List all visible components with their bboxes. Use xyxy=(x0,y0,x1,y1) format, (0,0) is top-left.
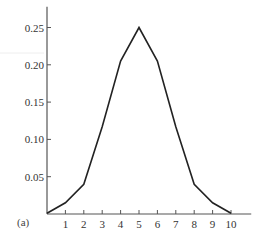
x-tick-label: 1 xyxy=(63,218,69,230)
y-tick-label: 0.20 xyxy=(25,59,45,71)
line-chart: 0.050.100.150.200.25 12345678910 (a) xyxy=(0,0,263,240)
y-tick-label: 0.10 xyxy=(25,133,45,145)
x-tick-label: 9 xyxy=(210,218,216,230)
x-tick-label: 7 xyxy=(173,218,179,230)
x-tick-label: 10 xyxy=(226,218,238,230)
y-tick-label: 0.15 xyxy=(25,96,45,108)
x-tick-label: 6 xyxy=(155,218,161,230)
panel-label: (a) xyxy=(17,216,30,229)
y-tick-label: 0.25 xyxy=(25,22,45,34)
x-tick-label: 8 xyxy=(191,218,197,230)
x-tick-label: 3 xyxy=(99,218,105,230)
x-tick-label: 5 xyxy=(136,218,142,230)
y-tick-label: 0.05 xyxy=(25,171,45,183)
x-axis-ticks: 12345678910 xyxy=(63,210,237,230)
x-tick-label: 2 xyxy=(81,218,87,230)
distribution-line xyxy=(47,28,231,214)
x-tick-label: 4 xyxy=(118,218,124,230)
axes xyxy=(47,7,251,214)
